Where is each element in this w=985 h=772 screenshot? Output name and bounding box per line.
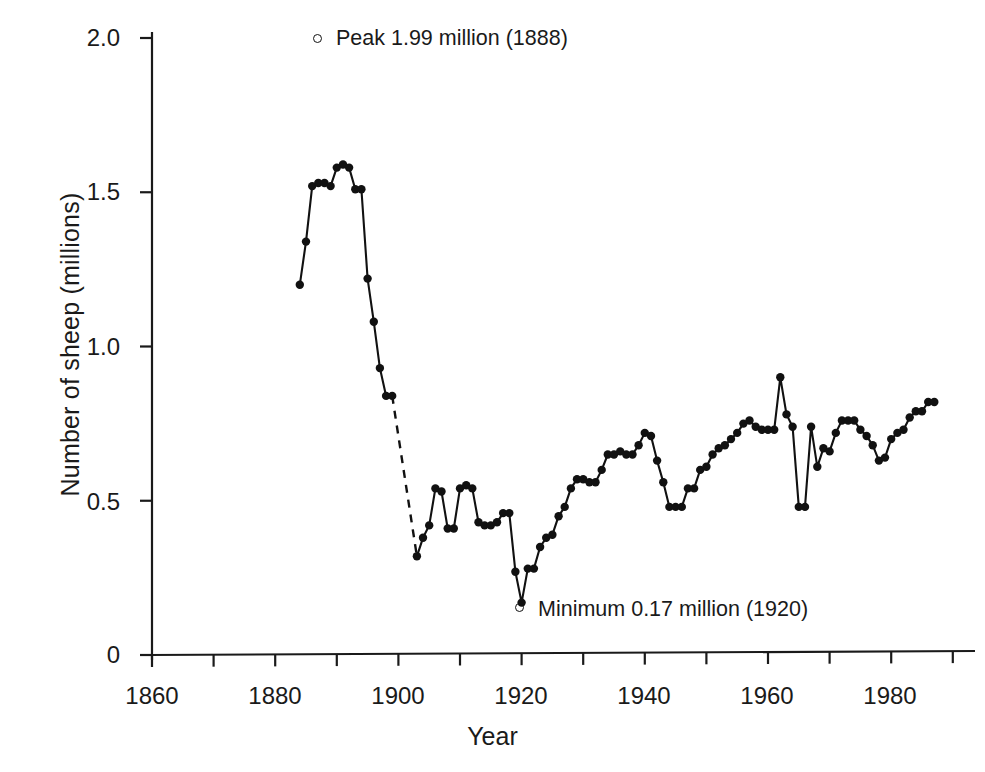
data-point	[918, 407, 926, 415]
y-axis-ticks	[140, 38, 152, 655]
data-point	[678, 503, 686, 511]
sheep-population-chart: Number of sheep (millions) Year 2.0 1.5 …	[0, 0, 985, 772]
data-point	[807, 423, 815, 431]
data-point	[567, 484, 575, 492]
x-axis-line	[148, 651, 975, 655]
data-point	[634, 441, 642, 449]
data-point	[813, 463, 821, 471]
data-point	[554, 512, 562, 520]
data-point	[801, 503, 809, 511]
data-point	[899, 426, 907, 434]
series-line-dashed-gap	[392, 396, 417, 556]
data-point	[561, 503, 569, 511]
data-point	[413, 552, 421, 560]
plot-area	[0, 0, 985, 772]
data-point	[296, 281, 304, 289]
data-point	[887, 435, 895, 443]
data-point	[659, 478, 667, 486]
data-point	[721, 441, 729, 449]
series-line	[300, 165, 935, 603]
data-point	[302, 237, 310, 245]
data-point	[419, 534, 427, 542]
data-point	[468, 484, 476, 492]
data-point	[653, 456, 661, 464]
data-point	[856, 426, 864, 434]
data-point	[776, 373, 784, 381]
data-point	[770, 426, 778, 434]
data-point	[493, 518, 501, 526]
data-point	[733, 429, 741, 437]
axes	[148, 32, 975, 660]
data-point	[862, 432, 870, 440]
series-markers	[296, 160, 939, 607]
data-point	[511, 568, 519, 576]
data-point	[708, 450, 716, 458]
data-point	[869, 441, 877, 449]
data-point	[591, 478, 599, 486]
data-point	[690, 484, 698, 492]
data-point	[788, 423, 796, 431]
data-point	[530, 564, 538, 572]
data-point	[702, 463, 710, 471]
data-point	[881, 453, 889, 461]
data-point	[388, 392, 396, 400]
data-point	[906, 413, 914, 421]
data-point	[930, 398, 938, 406]
data-point	[825, 447, 833, 455]
data-point	[326, 182, 334, 190]
data-point	[450, 524, 458, 532]
data-point	[832, 429, 840, 437]
data-point	[505, 509, 513, 517]
data-point	[536, 543, 544, 551]
data-point	[647, 432, 655, 440]
data-point	[782, 410, 790, 418]
data-point	[548, 531, 556, 539]
data-point	[517, 598, 525, 606]
data-point	[850, 416, 858, 424]
data-point	[357, 185, 365, 193]
data-point	[370, 318, 378, 326]
data-point	[425, 521, 433, 529]
data-point	[727, 435, 735, 443]
data-point	[745, 416, 753, 424]
data-point	[437, 487, 445, 495]
data-point	[345, 163, 353, 171]
data-point	[628, 450, 636, 458]
data-point	[363, 274, 371, 282]
data-point	[598, 466, 606, 474]
data-point	[376, 364, 384, 372]
